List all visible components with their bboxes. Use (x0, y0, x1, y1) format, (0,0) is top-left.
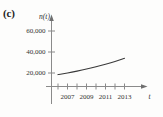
x-axis-arrow-icon (141, 84, 148, 89)
data-curve-n-of-t (58, 58, 125, 74)
y-axis-label: n(t) (39, 12, 50, 21)
y-tick-label-60000: 60,000 (26, 27, 46, 35)
line-chart: 60,000 40,000 20,000 n(t) 2007 2009 2011… (0, 0, 163, 117)
y-tick-label-40000: 40,000 (26, 48, 46, 56)
x-tick-label-2011: 2011 (99, 93, 113, 101)
x-tick-label-2013: 2013 (118, 93, 133, 101)
figure-panel-c: (c) 60,000 40,000 20,000 n(t) 2007 2009 … (0, 0, 163, 117)
y-tick-label-20000: 20,000 (26, 69, 46, 77)
x-axis-label: t (148, 92, 151, 101)
x-tick-label-2007: 2007 (61, 93, 76, 101)
x-tick-label-2009: 2009 (80, 93, 95, 101)
